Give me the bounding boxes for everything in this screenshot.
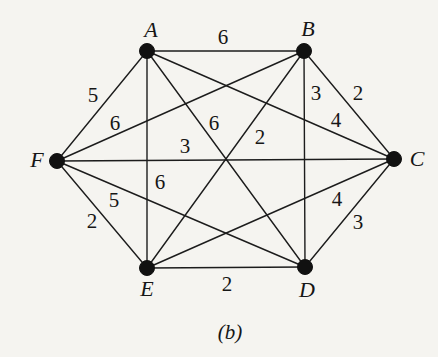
edge-EF — [57, 161, 147, 268]
node-C — [387, 152, 402, 167]
node-E — [140, 261, 155, 276]
edge-AF — [57, 51, 147, 161]
node-D — [298, 260, 313, 275]
edge-weight-CD: 3 — [353, 210, 364, 234]
figure-caption: (b) — [218, 320, 243, 345]
edge-CD — [305, 159, 394, 267]
node-label-A: A — [142, 17, 158, 42]
node-F — [50, 154, 65, 169]
edge-weight-AB: 6 — [218, 25, 229, 49]
edge-weight-CE: 4 — [332, 187, 343, 211]
edge-weight-EF: 2 — [87, 209, 98, 233]
node-B — [297, 44, 312, 59]
edge-weight-CF: 3 — [180, 134, 191, 158]
edge-weight-AC: 4 — [331, 108, 342, 132]
node-label-F: F — [29, 147, 44, 172]
edge-weight-AF: 5 — [88, 83, 99, 107]
graph-canvas: 646652326343252ABCDEF — [0, 0, 438, 357]
edge-BC — [304, 51, 394, 159]
edge-DE — [147, 267, 305, 268]
edge-CF — [57, 159, 394, 161]
node-label-C: C — [410, 146, 425, 171]
figure: 646652326343252ABCDEF (b) — [0, 0, 438, 357]
edge-weight-BE: 2 — [255, 125, 266, 149]
node-label-B: B — [301, 16, 314, 41]
edge-weight-BC: 2 — [353, 81, 364, 105]
edge-weight-BF: 6 — [110, 111, 121, 135]
node-label-D: D — [298, 277, 315, 302]
node-label-E: E — [139, 276, 154, 301]
edge-weight-DF: 5 — [109, 188, 120, 212]
edge-weight-AD: 6 — [209, 111, 220, 135]
edge-weight-DE: 2 — [222, 272, 233, 296]
edge-weight-AE: 6 — [155, 170, 166, 194]
edge-weight-BD: 3 — [311, 81, 322, 105]
node-A — [140, 44, 155, 59]
